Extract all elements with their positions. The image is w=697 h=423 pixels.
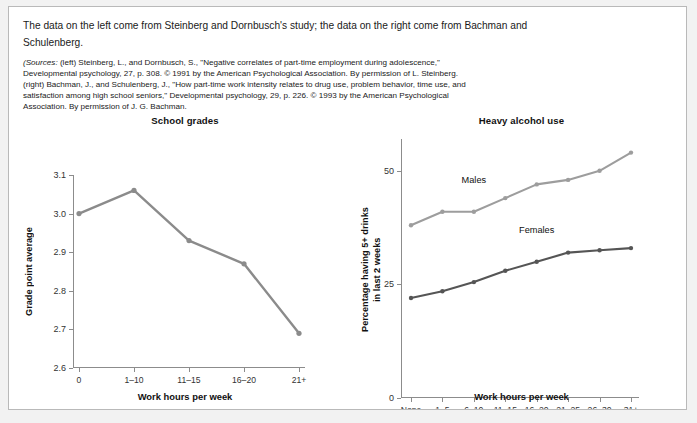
figure-container: The data on the left come from Steinberg… — [8, 6, 687, 410]
x-axis-title-left: Work hours per week — [15, 391, 355, 402]
data-point-marker — [629, 150, 633, 154]
series-label-females: Females — [519, 225, 554, 235]
y-tick-label: 2.6 — [53, 363, 66, 373]
x-tick-label: 1–5 — [435, 405, 449, 410]
intro-paragraph: The data on the left come from Steinberg… — [23, 17, 543, 51]
chart-panel-heavy-alcohol-use: Heavy alcohol use Percentage having 5+ d… — [355, 115, 687, 407]
series-line — [79, 190, 299, 333]
data-point-marker — [409, 296, 413, 300]
x-tick-label: 0 — [77, 375, 82, 385]
data-point-marker — [472, 280, 476, 284]
x-tick-label: 16–20 — [232, 375, 256, 385]
series-line — [411, 153, 631, 226]
data-point-marker — [597, 169, 601, 173]
y-tick-label: 25 — [384, 279, 394, 289]
x-tick-mark — [299, 368, 300, 372]
x-tick-label: 6–10 — [464, 405, 483, 410]
x-tick-label: 21+ — [292, 375, 307, 385]
chart-title-left: School grades — [15, 115, 355, 126]
line-series-left — [73, 175, 305, 368]
y-tick-label: 50 — [384, 166, 394, 176]
y-axis-title-right: Percentage having 5+ drinksin last 2 wee… — [359, 167, 383, 372]
y-tick-label: 2.7 — [53, 324, 66, 334]
x-tick-mark — [244, 368, 245, 372]
plot-area-left: 2.62.72.82.93.03.1 01–1011–1516–2021+ — [73, 175, 305, 368]
y-axis-title-left: Grade point average — [23, 175, 35, 368]
data-point-marker — [535, 182, 539, 186]
data-point-marker — [296, 331, 301, 336]
line-series-right — [401, 139, 639, 398]
chart-panel-school-grades: School grades Grade point average 2.62.7… — [15, 115, 355, 407]
series-label-males: Males — [462, 175, 487, 185]
y-tick-label: 2.9 — [53, 247, 66, 257]
y-tick-mark — [69, 175, 73, 176]
y-tick-mark — [69, 368, 73, 369]
y-tick-mark — [397, 284, 401, 285]
y-axis-title-right-line2: in last 2 weeks — [372, 237, 382, 301]
x-tick-label: 21–25 — [556, 405, 580, 410]
y-tick-mark — [69, 291, 73, 292]
data-point-marker — [597, 248, 601, 252]
y-axis-title-right-line1: Percentage having 5+ drinks — [360, 207, 370, 332]
x-tick-mark — [189, 368, 190, 372]
data-point-marker — [629, 246, 633, 250]
data-point-marker — [186, 238, 191, 243]
x-tick-label: 11–15 — [177, 375, 200, 385]
data-point-marker — [440, 289, 444, 293]
data-point-marker — [76, 211, 81, 216]
x-tick-label: 16–20 — [525, 405, 549, 410]
data-point-marker — [409, 223, 413, 227]
y-axis-line-left — [73, 175, 74, 368]
x-axis-title-right: Work hours per week — [355, 391, 687, 402]
data-point-marker — [440, 210, 444, 214]
y-axis-line-right — [401, 139, 402, 398]
sources-paragraph: (Sources: (left) Steinberg, L., and Dorn… — [23, 57, 473, 112]
data-point-marker — [472, 210, 476, 214]
y-tick-mark — [397, 171, 401, 172]
x-tick-mark — [79, 368, 80, 372]
y-tick-label: 2.8 — [53, 286, 66, 296]
y-tick-label: 3.1 — [53, 170, 66, 180]
x-tick-label: 31+ — [624, 405, 639, 410]
x-tick-label: 1–10 — [124, 375, 143, 385]
y-tick-label: 3.0 — [53, 209, 66, 219]
y-tick-mark — [69, 252, 73, 253]
data-point-marker — [241, 261, 246, 266]
x-tick-mark — [134, 368, 135, 372]
y-tick-mark — [69, 329, 73, 330]
chart-title-right: Heavy alcohol use — [355, 115, 687, 126]
plot-area-right: 02550 None1–56–1011–1516–2021–2526–3031+… — [401, 139, 639, 398]
x-tick-label: None — [401, 405, 422, 410]
data-point-marker — [566, 250, 570, 254]
data-point-marker — [131, 188, 136, 193]
y-tick-mark — [69, 214, 73, 215]
sources-prefix: (Sources: — [23, 58, 58, 67]
data-point-marker — [503, 269, 507, 273]
x-tick-label: 26–30 — [588, 405, 612, 410]
data-point-marker — [535, 260, 539, 264]
sources-body: (left) Steinberg, L., and Dornbusch, S.,… — [23, 58, 466, 111]
data-point-marker — [503, 196, 507, 200]
data-point-marker — [566, 178, 570, 182]
x-tick-label: 11–15 — [494, 405, 517, 410]
